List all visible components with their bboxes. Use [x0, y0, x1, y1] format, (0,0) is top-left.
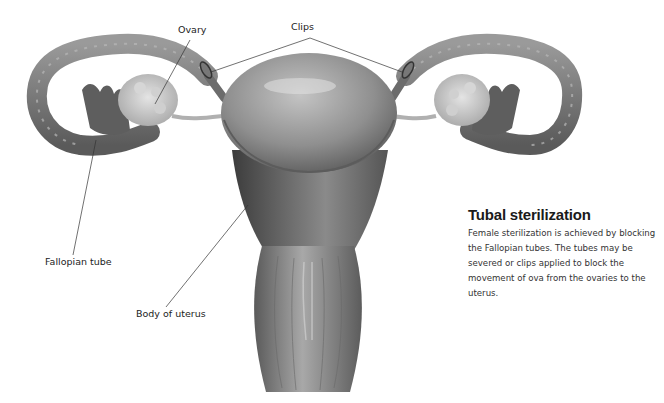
label-body-of-uterus: Body of uterus — [136, 308, 206, 319]
diagram-canvas: Ovary Clips Fallopian tube Body of uteru… — [0, 0, 664, 403]
label-ovary: Ovary — [178, 24, 206, 35]
uterus-body — [221, 53, 397, 392]
fallopian-tube-leader — [73, 140, 96, 255]
label-clips: Clips — [291, 21, 314, 32]
uterus-illustration — [0, 0, 664, 403]
body-of-uterus-leader — [166, 205, 248, 307]
label-fallopian-tube: Fallopian tube — [45, 256, 112, 267]
caption-body: Female sterilization is achieved by bloc… — [468, 226, 664, 301]
caption-block: Tubal sterilization Female sterilization… — [468, 206, 664, 301]
caption-title: Tubal sterilization — [468, 206, 664, 223]
